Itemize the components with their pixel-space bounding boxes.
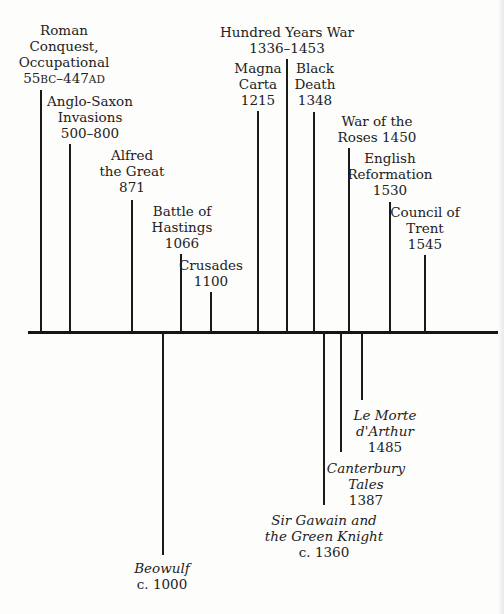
- event-label-roman: RomanConquest,Occupational55BC–447AD: [19, 22, 110, 87]
- event-label-anglo-saxon: Anglo-SaxonInvasions500–800: [47, 93, 133, 141]
- event-title-line: Battle of: [152, 203, 213, 219]
- event-title-line: Hundred Years War: [220, 24, 354, 40]
- page-edge-shadow: [498, 0, 504, 614]
- event-label-gawain: Sir Gawain andthe Green Knightc. 1360: [265, 512, 383, 560]
- event-date: 1545: [390, 236, 459, 252]
- event-date: 1066: [152, 235, 213, 251]
- event-date: 1530: [347, 182, 432, 198]
- event-title-line: Magna: [234, 60, 281, 76]
- event-label-crusades: Crusades1100: [179, 257, 243, 289]
- event-title-line: Roman: [19, 22, 110, 38]
- event-label-hundred-years-war: Hundred Years War1336–1453: [220, 24, 354, 56]
- event-label-alfred: Alfredthe Great871: [99, 147, 164, 195]
- event-title-line: Conquest,: [19, 38, 110, 54]
- event-line-beowulf: [162, 332, 164, 555]
- event-title-line: Council of: [390, 204, 459, 220]
- event-label-black-death: BlackDeath1348: [295, 60, 336, 108]
- event-date: 1215: [234, 92, 281, 108]
- event-title-line: Death: [295, 76, 336, 92]
- event-title-line: Black: [295, 60, 336, 76]
- event-title-line: Roses 1450: [338, 129, 417, 145]
- event-title-line: War of the: [338, 113, 417, 129]
- event-label-war-of-roses: War of theRoses 1450: [338, 113, 417, 145]
- event-line-hundred-years-war: [286, 59, 288, 332]
- event-title-line: Sir Gawain and: [265, 512, 383, 528]
- event-line-morte: [361, 332, 363, 400]
- event-line-trent: [424, 255, 426, 332]
- event-line-roman: [40, 90, 42, 332]
- event-date: 1100: [179, 273, 243, 289]
- event-title-line: Invasions: [47, 109, 133, 125]
- event-date: 1485: [353, 439, 416, 455]
- event-label-trent: Council ofTrent1545: [390, 204, 459, 252]
- event-date: c. 1000: [134, 576, 190, 592]
- event-title-line: Anglo-Saxon: [47, 93, 133, 109]
- event-title-line: Occupational: [19, 54, 110, 70]
- event-title-line: English: [347, 150, 432, 166]
- event-line-black-death: [313, 112, 315, 332]
- event-title-line: Tales: [327, 476, 405, 492]
- event-label-magna-carta: MagnaCarta1215: [234, 60, 281, 108]
- event-date: 1387: [327, 492, 405, 508]
- event-label-morte: Le Morted'Arthur1485: [353, 407, 416, 455]
- event-title-line: Reformation: [347, 166, 432, 182]
- event-line-gawain: [323, 332, 325, 505]
- timeline-axis: [28, 331, 504, 334]
- event-title-line: the Great: [99, 163, 164, 179]
- event-title-line: Le Morte: [353, 407, 416, 423]
- event-label-hastings: Battle ofHastings1066: [152, 203, 213, 251]
- event-title-line: Trent: [390, 220, 459, 236]
- event-title-line: Crusades: [179, 257, 243, 273]
- event-line-crusades: [210, 292, 212, 332]
- event-date: 871: [99, 179, 164, 195]
- event-title-line: the Green Knight: [265, 528, 383, 544]
- event-title-line: Hastings: [152, 219, 213, 235]
- event-label-beowulf: Beowulfc. 1000: [134, 560, 190, 592]
- event-line-alfred: [131, 200, 133, 332]
- event-title-line: Beowulf: [134, 560, 190, 576]
- event-date: 55BC–447AD: [19, 70, 110, 87]
- event-title-line: Alfred: [99, 147, 164, 163]
- event-date: 1348: [295, 92, 336, 108]
- event-line-magna-carta: [257, 111, 259, 332]
- event-title-line: d'Arthur: [353, 423, 416, 439]
- event-line-anglo-saxon: [69, 144, 71, 332]
- event-date: 500–800: [47, 125, 133, 141]
- event-line-canterbury: [340, 332, 342, 452]
- event-label-canterbury: CanterburyTales1387: [327, 460, 405, 508]
- event-date: c. 1360: [265, 544, 383, 560]
- event-title-line: Canterbury: [327, 460, 405, 476]
- event-date: 1336–1453: [220, 40, 354, 56]
- event-label-reformation: EnglishReformation1530: [347, 150, 432, 198]
- event-title-line: Carta: [234, 76, 281, 92]
